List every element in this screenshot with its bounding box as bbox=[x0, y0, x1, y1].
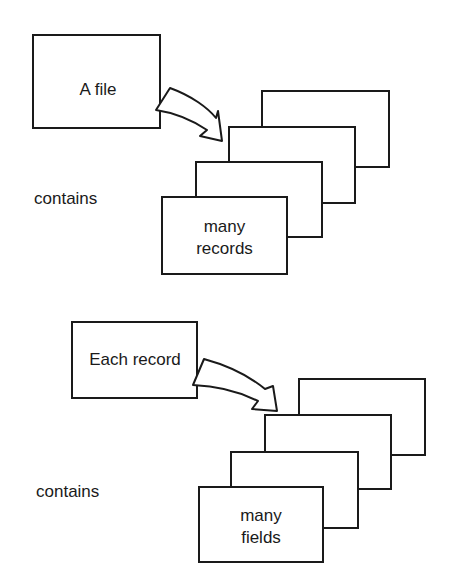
curved-arrow-icon-top bbox=[156, 88, 222, 141]
arrows-layer bbox=[0, 0, 464, 580]
curved-arrow-icon-bottom bbox=[193, 359, 277, 411]
